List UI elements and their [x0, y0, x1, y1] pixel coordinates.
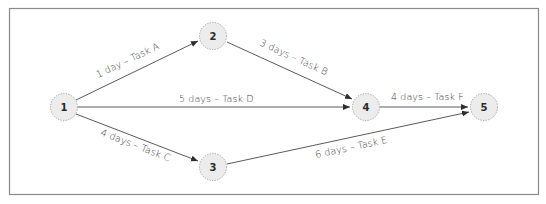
node-5: 5: [471, 94, 498, 121]
network-diagram: 1 day – Task A 3 days – Task B 5 days – …: [0, 0, 546, 204]
node-1: 1: [51, 94, 78, 121]
node-5-label: 5: [481, 102, 488, 113]
node-1-label: 1: [61, 102, 68, 113]
node-3-label: 3: [210, 162, 217, 173]
node-2-label: 2: [210, 31, 217, 42]
edge-label-task-d: 5 days – Task D: [179, 93, 254, 104]
node-4-label: 4: [363, 102, 370, 113]
edge-label-task-f: 4 days – Task F: [391, 91, 464, 102]
node-2: 2: [200, 23, 227, 50]
node-4: 4: [353, 94, 380, 121]
node-3: 3: [200, 154, 227, 181]
